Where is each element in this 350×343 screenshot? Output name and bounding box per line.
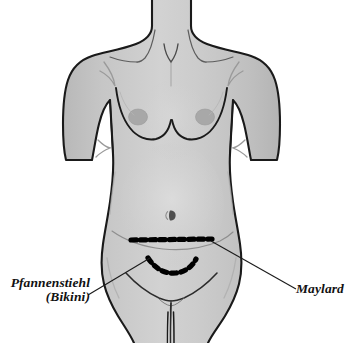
label-pfannenstiehl-line1: Pfannenstiehl [11, 275, 90, 290]
maylard-incision-line [131, 239, 212, 240]
anatomical-figure: Pfannenstiehl (Bikini) Maylard [0, 0, 350, 343]
body-silhouette [63, 0, 280, 343]
thigh-gap-right-edge [174, 312, 175, 343]
label-maylard: Maylard [296, 282, 344, 296]
armpit-crease-left [96, 140, 110, 157]
thigh-gap-left-edge [168, 312, 169, 343]
perineal-line [170, 303, 171, 343]
label-maylard-line1: Maylard [296, 281, 344, 296]
armpit-crease-right [233, 140, 247, 157]
areola-right [196, 109, 215, 125]
label-pfannenstiehl: Pfannenstiehl (Bikini) [8, 276, 90, 304]
areola-left [129, 109, 148, 125]
label-pfannenstiehl-line2: (Bikini) [8, 290, 90, 304]
